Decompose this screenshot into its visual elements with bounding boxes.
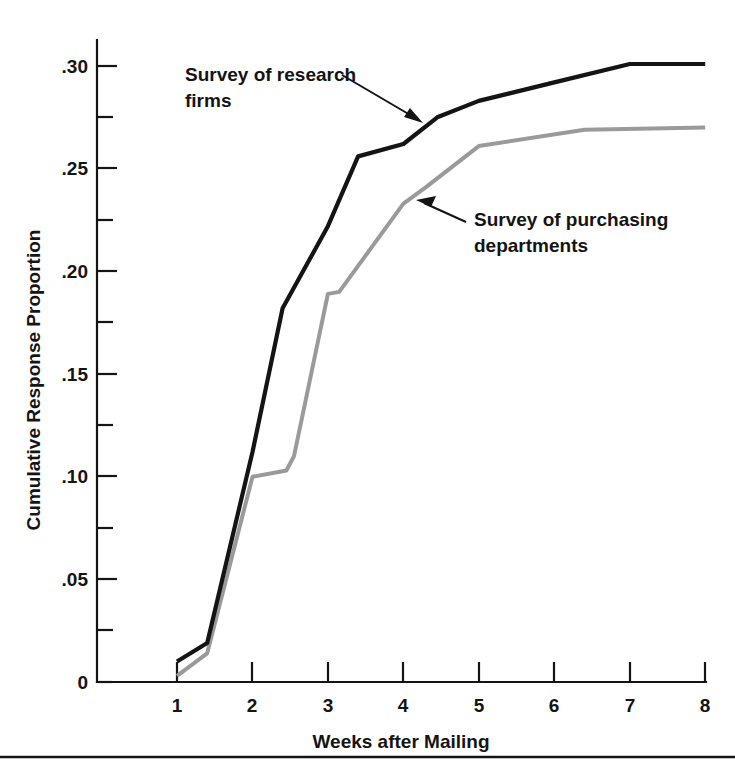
y-tick-label-010: .10: [62, 466, 88, 487]
y-axis-title: Cumulative Response Proportion: [23, 230, 44, 531]
x-tick-label-4: 4: [398, 695, 409, 716]
y-tick-label-020: .20: [62, 261, 88, 282]
annotation-purchasing-line-1: Survey of purchasing: [474, 209, 668, 230]
chart-background: [0, 0, 735, 766]
x-axis-title: Weeks after Mailing: [312, 731, 489, 752]
y-tick-label-030: .30: [62, 56, 88, 77]
x-tick-label-5: 5: [474, 695, 485, 716]
y-tick-label-025: .25: [62, 158, 89, 179]
y-tick-label-0: 0: [77, 672, 88, 693]
annotation-purchasing-line-2: departments: [474, 235, 588, 256]
x-tick-label-8: 8: [700, 695, 711, 716]
response-rate-line-chart: 0 .05 .10 .15 .20 .25 .30 1 2 3 4 5 6: [0, 0, 735, 766]
x-tick-label-3: 3: [323, 695, 334, 716]
x-tick-label-1: 1: [172, 695, 183, 716]
annotation-research-firms-line-2: firms: [185, 90, 231, 111]
x-tick-label-6: 6: [549, 695, 560, 716]
annotation-research-firms-line-1: Survey of research: [185, 64, 356, 85]
x-tick-label-2: 2: [247, 695, 258, 716]
y-tick-label-015: .15: [62, 364, 89, 385]
x-tick-label-7: 7: [625, 695, 636, 716]
chart-figure: 0 .05 .10 .15 .20 .25 .30 1 2 3 4 5 6: [0, 0, 735, 766]
y-tick-label-005: .05: [62, 569, 89, 590]
